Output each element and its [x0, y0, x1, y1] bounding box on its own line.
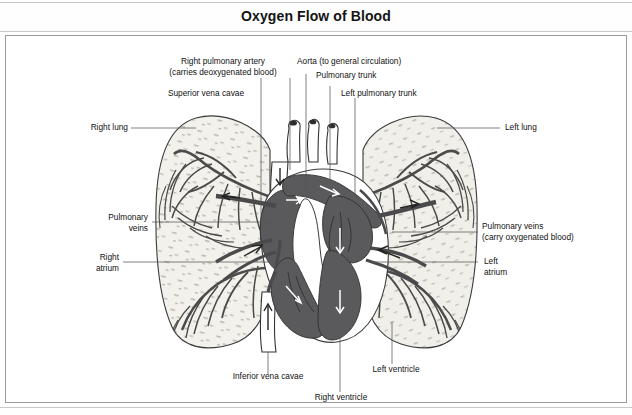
figure-page: Oxygen Flow of Blood	[0, 0, 632, 415]
label-aorta: Aorta (to general circulation)	[297, 56, 401, 66]
label-pulmonary-trunk: Pulmonary trunk	[316, 70, 376, 80]
label-right-atrium-line2: atrium	[20, 263, 119, 273]
label-right-ventricle: Right ventricle	[286, 392, 396, 402]
top-rule	[0, 2, 632, 3]
bottom-rule	[0, 407, 632, 408]
label-right-pulmonary-artery-line2: (carries deoxygenated blood)	[150, 67, 296, 77]
label-inferior-vena-cavae: Inferior vena cavae	[196, 371, 340, 381]
label-left-atrium-line1: Left	[484, 256, 498, 266]
label-superior-vena-cavae: Superior vena cavae	[133, 88, 279, 98]
label-left-lung: Left lung	[505, 122, 537, 132]
label-left-pulmonary-trunk: Left pulmonary trunk	[341, 88, 417, 98]
label-right-lung: Right lung	[12, 122, 128, 132]
label-left-atrium-line2: atrium	[484, 267, 507, 277]
label-left-ventricle: Left ventricle	[346, 364, 446, 374]
label-pulmonary-veins-left-line2: veins	[20, 223, 148, 233]
label-pulmonary-veins-right-line1: Pulmonary veins	[482, 221, 543, 231]
page-title: Oxygen Flow of Blood	[0, 8, 632, 24]
label-pulmonary-veins-left-line1: Pulmonary	[20, 212, 148, 222]
label-right-atrium-line1: Right	[20, 252, 119, 262]
title-underrule	[0, 31, 632, 32]
label-right-pulmonary-artery-line1: Right pulmonary artery	[150, 56, 296, 66]
label-pulmonary-veins-right-line2: (carry oxygenated blood)	[482, 232, 574, 242]
